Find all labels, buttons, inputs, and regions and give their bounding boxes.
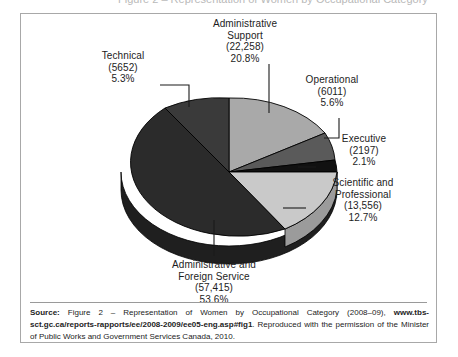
label-technical-value: (5652) [81,62,165,74]
label-administrative-foreign-service-line2: Foreign Service [139,271,289,283]
source-body-first: Figure 2 – Representation of Women by Oc… [60,308,394,317]
label-technical-percent: 5.3% [81,73,165,85]
label-administrative-support: Administrative Support (22,258) 20.8% [191,18,299,64]
label-technical: Technical (5652) 5.3% [81,50,165,85]
label-administrative-support-percent: 20.8% [191,53,299,65]
label-executive-percent: 2.1% [321,156,407,168]
label-operational: Operational (6011) 5.6% [286,74,378,109]
source-prefix: Source: [30,308,60,317]
label-administrative-foreign-service: Administrative and Foreign Service (57,4… [139,259,289,305]
label-administrative-foreign-service-line1: Administrative and [139,259,289,271]
clipped-header-label: Figure 2 – Representation of Women by Oc… [118,0,428,5]
label-scientific-professional-line1: Scientific and [311,177,415,189]
source-divider [30,302,427,303]
label-administrative-support-value: (22,258) [191,41,299,53]
label-operational-line1: Operational [286,74,378,86]
label-executive-line1: Executive [321,133,407,145]
label-administrative-foreign-service-percent: 53.6% [139,294,289,306]
label-scientific-professional-line2: Professional [311,189,415,201]
clipped-header-text: Figure 2 – Representation of Women by Oc… [0,0,458,9]
label-scientific-professional: Scientific and Professional (13,556) 12.… [311,177,415,223]
label-administrative-support-line2: Support [191,30,299,42]
pie-chart-area: Administrative Support (22,258) 20.8% Te… [21,14,436,301]
label-administrative-foreign-service-value: (57,415) [139,282,289,294]
label-technical-line1: Technical [81,50,165,62]
label-executive: Executive (2197) 2.1% [321,133,407,168]
label-scientific-professional-value: (13,556) [311,200,415,212]
label-operational-percent: 5.6% [286,97,378,109]
label-executive-value: (2197) [321,145,407,157]
label-administrative-support-line1: Administrative [191,18,299,30]
label-scientific-professional-percent: 12.7% [311,212,415,224]
figure-container: Administrative Support (22,258) 20.8% Te… [20,13,437,343]
label-operational-value: (6011) [286,86,378,98]
source-note: Source: Figure 2 – Representation of Wom… [30,307,429,342]
